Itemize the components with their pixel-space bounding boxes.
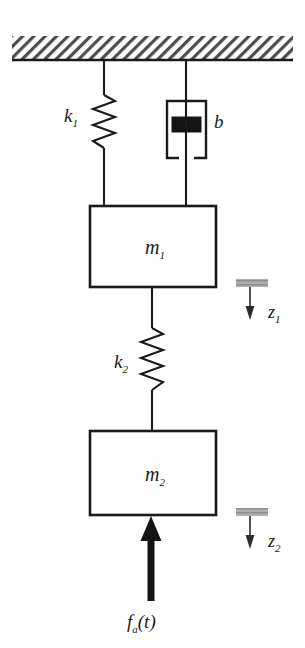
diagram-canvas: k1 b m1 z1: [0, 0, 305, 648]
spring-k1: k1: [64, 60, 115, 207]
z1-datum-bar: [236, 279, 268, 287]
z1-label: z1: [267, 302, 281, 325]
mass-m1: m1: [90, 206, 216, 287]
spring-k1-coil: [93, 95, 115, 148]
damper-b: b: [167, 60, 224, 207]
applied-force-fa: fa(t): [127, 516, 162, 635]
reference-z2: z2: [236, 508, 281, 554]
mass-m2: m2: [90, 431, 216, 515]
spring-k1-label: k1: [64, 105, 78, 129]
z2-datum-bar: [236, 508, 268, 516]
spring-k2: k2: [114, 287, 163, 432]
z2-arrow-head: [246, 535, 255, 549]
damper-b-label: b: [214, 111, 224, 132]
spring-k2-label: k2: [114, 351, 128, 375]
spring-k2-coil: [141, 328, 163, 390]
z1-arrow-head: [246, 306, 255, 320]
mechanical-system-diagram: k1 b m1 z1: [0, 0, 305, 648]
fixed-support: [12, 36, 293, 60]
ceiling-hatch-fill: [12, 36, 293, 59]
force-fa-label: fa(t): [127, 611, 156, 635]
force-arrow-head: [141, 516, 162, 541]
reference-z1: z1: [236, 279, 281, 325]
z2-label: z2: [267, 531, 281, 554]
force-arrow-shaft: [148, 540, 155, 601]
